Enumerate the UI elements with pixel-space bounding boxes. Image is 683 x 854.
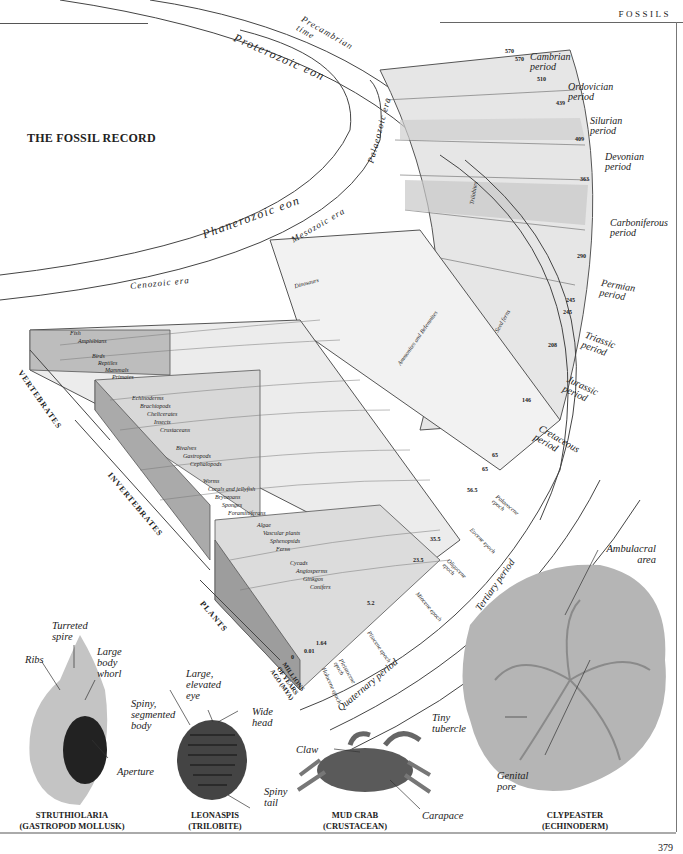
divider (0, 23, 148, 24)
specimen-type: (ECHINODERM) (515, 821, 635, 832)
specimen-name: MUD CRAB (300, 810, 410, 821)
callout-label: Turreted spire (52, 620, 92, 642)
taxon-label: Insects (154, 419, 171, 425)
tick-label: 5.2 (367, 600, 375, 606)
callout-label: Spiny, segmented body (131, 698, 186, 731)
taxon-label: Cephalopods (190, 461, 222, 467)
taxon-label: Bivalves (176, 445, 196, 451)
tick-label: 56.5 (467, 487, 478, 493)
period-label: Cambrian period (530, 52, 590, 72)
tick-label: 245 (566, 297, 575, 303)
taxon-label: Sphenopsids (270, 538, 300, 544)
callout-label: Claw (296, 744, 318, 755)
callout-label: Ambulacral area (596, 543, 656, 565)
specimen-type: (CRUSTACEAN) (300, 821, 410, 832)
callout-label: Spiny tail (264, 786, 299, 808)
taxon-label: Corals and jellyfish (208, 486, 255, 492)
taxon-label: Cycads (290, 560, 308, 566)
taxon-label: Amphibians (78, 338, 107, 344)
divider (440, 22, 683, 23)
specimen-caption: LEONASPIS (TRILOBITE) (160, 810, 270, 832)
tick-label: 290 (577, 253, 586, 259)
taxon-label: Vascular plants (263, 530, 300, 536)
tick-label: 409 (575, 136, 584, 142)
callout-label: Large, elevated eye (186, 668, 236, 701)
callout-label: Large body whorl (97, 646, 137, 679)
tick-label: 245 (563, 309, 572, 315)
taxon-label: Ferns (276, 546, 290, 552)
page-number: 379 (658, 842, 673, 853)
divider (676, 22, 677, 832)
taxon-label: Reptiles (98, 360, 117, 366)
callout-label: Carapace (422, 810, 463, 821)
taxon-label: Crustaceans (160, 427, 190, 433)
specimen-name: STRUTHIOLARIA (12, 810, 132, 821)
specimen-name: CLYPEASTER (515, 810, 635, 821)
taxon-label: Conifers (310, 584, 331, 590)
period-label: Carboniferous period (610, 218, 680, 238)
taxon-label: Mammals (105, 367, 129, 373)
fossil-record-diagram (0, 0, 683, 854)
taxon-label: Bryozoans (215, 494, 240, 500)
taxon-label: Echinoderms (132, 395, 164, 401)
callout-label: Genital pore (497, 770, 537, 792)
tick-label: 570 (505, 48, 514, 54)
specimen-caption: CLYPEASTER (ECHINODERM) (515, 810, 635, 832)
specimen-caption: MUD CRAB (CRUSTACEAN) (300, 810, 410, 832)
taxon-label: Ginkgos (303, 576, 323, 582)
tick-label: 570 (515, 56, 524, 62)
tick-label: 65 (482, 466, 488, 472)
tick-label: 208 (548, 342, 557, 348)
period-label: Ordovician period (568, 82, 628, 102)
tick-label: 439 (556, 100, 565, 106)
specimen-caption: STRUTHIOLARIA (GASTROPOD MOLLUSK) (12, 810, 132, 832)
taxon-label: Fish (70, 330, 81, 336)
period-label: Devonian period (605, 152, 665, 172)
taxon-label: Angiosperms (296, 568, 327, 574)
taxon-label: Chelicerates (147, 411, 177, 417)
callout-label: Wide head (252, 706, 287, 728)
tick-label: 23.5 (413, 557, 424, 563)
specimen-type: (GASTROPOD MOLLUSK) (12, 821, 132, 832)
taxon-label: Primates (112, 374, 134, 380)
tick-label: 146 (522, 397, 531, 403)
taxon-label: Gastropods (183, 453, 211, 459)
taxon-label: Foraminiferans (228, 510, 266, 516)
tick-label: 510 (537, 76, 546, 82)
taxon-label: Birds (92, 353, 105, 359)
taxon-label: Sponges (222, 502, 242, 508)
tick-label: 35.5 (430, 536, 441, 542)
taxon-label: Algae (257, 522, 271, 528)
specimen-type: (TRILOBITE) (160, 821, 270, 832)
tick-label: 363 (580, 176, 589, 182)
tick-label: 0.01 (304, 648, 315, 654)
page-title: THE FOSSIL RECORD (27, 131, 156, 146)
callout-label: Ribs (25, 654, 44, 665)
specimen-name: LEONASPIS (160, 810, 270, 821)
taxon-label: Worms (203, 478, 219, 484)
taxon-label: Brachiopods (140, 403, 171, 409)
callout-label: Tiny tubercle (432, 712, 472, 734)
tick-label: 65 (492, 452, 498, 458)
tick-label: 0 (291, 654, 294, 660)
period-label: Silurian period (590, 116, 650, 136)
divider (0, 832, 676, 834)
section-header: FOSSILS (618, 9, 671, 19)
callout-label: Aperture (117, 766, 154, 777)
tick-label: 1.64 (316, 640, 327, 646)
